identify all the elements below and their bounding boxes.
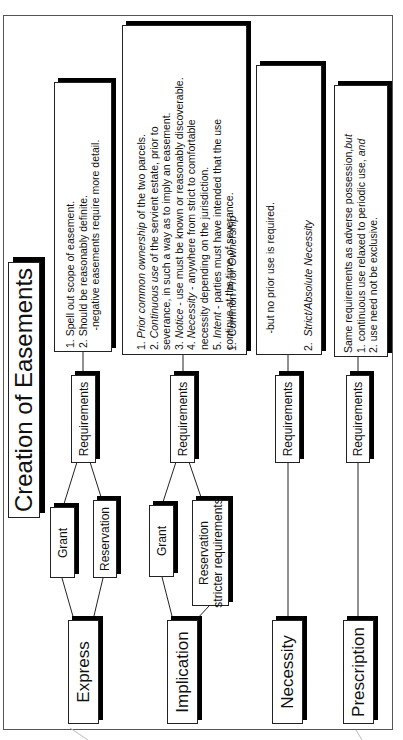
necessity-req-line-2: -but no prior use is required. bbox=[264, 69, 277, 351]
implication-requirements-node[interactable]: Requirements bbox=[170, 375, 195, 463]
implication-grant-node[interactable]: Grant bbox=[149, 505, 174, 577]
express-requirements-text-box: 1. Spell out scope of easement. 2. Shoul… bbox=[54, 82, 112, 352]
prescription-requirements-label: Requirements bbox=[351, 382, 365, 457]
prescription-requirements-text: Same requirements as adverse possession,… bbox=[342, 89, 380, 353]
express-req-line-1: 1. Spell out scope of easement. bbox=[64, 86, 77, 348]
express-requirements-text: 1. Spell out scope of easement. 2. Shoul… bbox=[64, 86, 102, 348]
implication-grant-label: Grant bbox=[155, 526, 169, 556]
prescription-requirements-text-box: Same requirements as adverse possession,… bbox=[334, 85, 388, 357]
express-reservation-label: Reservation bbox=[98, 507, 112, 571]
prescription-req-line-3: 2. use need not be exclusive. bbox=[367, 89, 380, 353]
express-label: Express bbox=[74, 641, 94, 702]
express-req-line-2: 2. Should be reasonably definite. bbox=[77, 86, 90, 348]
express-reservation-node[interactable]: Reservation bbox=[93, 500, 117, 578]
necessity-label: Necessity bbox=[278, 635, 298, 709]
prescription-node[interactable]: Prescription bbox=[343, 620, 374, 724]
express-grant-label: Grant bbox=[56, 527, 70, 557]
prescription-req-line-1: Same requirements as adverse possession,… bbox=[342, 89, 355, 353]
prescription-label: Prescription bbox=[349, 627, 369, 717]
diagram-title-box: Creation of Easements bbox=[8, 262, 40, 518]
implication-node[interactable]: Implication bbox=[167, 620, 198, 724]
express-req-line-3: -negative easements require more detail. bbox=[89, 86, 102, 348]
express-requirements-label: Requirements bbox=[77, 382, 91, 457]
necessity-req-line-3: 2. Strict/Absolute Necessity bbox=[302, 69, 315, 351]
necessity-req-line-1: 1. Common Prior Ownership bbox=[226, 69, 239, 351]
express-requirements-node[interactable]: Requirements bbox=[71, 375, 96, 463]
implication-req-line-1: 1. Prior common ownership of the two par… bbox=[134, 30, 147, 350]
express-node[interactable]: Express bbox=[68, 620, 99, 724]
implication-requirements-label: Requirements bbox=[176, 382, 190, 457]
implication-label: Implication bbox=[173, 631, 193, 712]
implication-reservation-title: Reservation bbox=[197, 498, 211, 607]
necessity-requirements-label: Requirements bbox=[281, 382, 295, 457]
implication-req-line-5: 4. Necessity - anywhere from strict to c… bbox=[185, 30, 198, 350]
implication-req-line-4: 3. Notice - use must be known or reasona… bbox=[172, 30, 185, 350]
prescription-requirements-node[interactable]: Requirements bbox=[346, 375, 370, 463]
implication-reservation-node[interactable]: Reservation stricter requirements bbox=[192, 500, 229, 606]
implication-reservation-sublabel: stricter requirements bbox=[211, 498, 225, 607]
implication-req-line-2: 2. Continuous use of the servient estate… bbox=[147, 30, 160, 350]
express-grant-node[interactable]: Grant bbox=[50, 507, 75, 578]
prescription-req-line-2: 1. continuous use relaxed to periodic us… bbox=[355, 89, 368, 353]
necessity-requirements-node[interactable]: Requirements bbox=[275, 375, 300, 463]
implication-reservation-label: Reservation stricter requirements bbox=[197, 498, 225, 607]
necessity-requirements-text-box: 1. Common Prior Ownership -but no prior … bbox=[256, 65, 322, 355]
diagram-title: Creation of Easements bbox=[10, 268, 38, 512]
necessity-node[interactable]: Necessity bbox=[272, 620, 303, 724]
implication-req-line-3: severance, in such a way as to imply an … bbox=[159, 30, 172, 350]
